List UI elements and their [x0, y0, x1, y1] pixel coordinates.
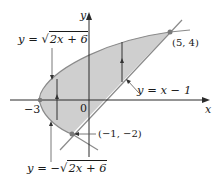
label-upper-parabola: y = √2x + 6	[18, 34, 88, 46]
label-lower-parabola: y = −√2x + 6	[27, 163, 107, 175]
origin-label: 0	[80, 103, 87, 114]
x-axis-label: x	[205, 104, 211, 115]
region-diagram: y x 0 −3 y = √2x + 6 y = −√2x + 6 y = x …	[0, 0, 221, 188]
x-tick-minus-3: −3	[24, 104, 40, 115]
point-bottom-intersection	[70, 132, 75, 137]
label-point-minus1-minus2: (−1, −2)	[98, 129, 142, 139]
y-axis-label: y	[80, 10, 86, 21]
radical-icon: √	[41, 32, 48, 46]
parabola-lower-extension	[72, 134, 98, 150]
point-top-intersection	[168, 30, 173, 35]
label-line: y = x − 1	[137, 85, 191, 97]
lower-parabola-prefix: y = −	[27, 161, 60, 175]
point-vertex	[38, 98, 43, 103]
lower-parabola-radicand: 2x + 6	[67, 160, 106, 175]
label-point-5-4: (5, 4)	[172, 38, 199, 48]
upper-parabola-radicand: 2x + 6	[49, 31, 88, 46]
y-axis-arrow-icon	[86, 12, 92, 20]
upper-parabola-prefix: y =	[18, 32, 41, 46]
